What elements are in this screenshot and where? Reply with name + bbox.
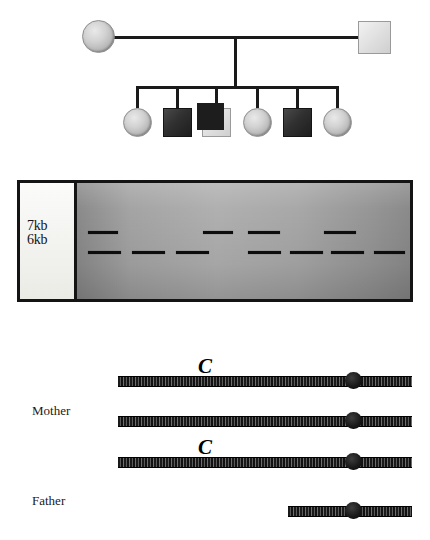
gel-electrophoresis: 7kb 6kb	[17, 180, 413, 302]
chromosome-bar-1	[118, 376, 412, 387]
gel-lane-area	[77, 183, 410, 299]
band-lane5-7kb	[248, 231, 280, 234]
centromere-3	[345, 453, 362, 470]
pedigree-chart	[0, 0, 430, 165]
pedigree-symbol-child-2[interactable]	[163, 108, 192, 137]
sibship-line	[136, 86, 339, 89]
child-drop-line-5	[296, 86, 299, 108]
band-lane8-6kb	[374, 251, 405, 254]
chromosome-row-4[interactable]	[0, 502, 430, 518]
chromosome-bar-2	[118, 416, 412, 427]
band-lane1-7kb	[88, 231, 118, 234]
chromosome-row-3[interactable]: C	[0, 453, 430, 469]
band-lane2-6kb	[132, 251, 165, 254]
child-drop-line-6	[336, 86, 339, 108]
chromosome-row-1[interactable]: C	[0, 372, 430, 388]
gel-marker-panel: 7kb 6kb	[20, 183, 77, 299]
pedigree-symbol-child-5[interactable]	[283, 108, 312, 137]
pedigree-symbol-father[interactable]	[358, 21, 391, 54]
pedigree-symbol-child-3[interactable]	[202, 108, 231, 137]
centromere-4	[345, 502, 362, 519]
band-lane1-6kb	[88, 251, 121, 254]
size-marker-7kb: 7kb	[27, 219, 47, 233]
gel-size-marker-labels: 7kb 6kb	[27, 219, 47, 248]
band-lane4-7kb	[203, 231, 233, 234]
band-lane3-6kb	[176, 251, 209, 254]
chromosome-haplotypes: Mother Father C C	[0, 350, 430, 540]
size-marker-6kb: 6kb	[27, 233, 47, 247]
figure-canvas: 7kb 6kb Mother Father	[0, 0, 430, 540]
chromosome-row-2[interactable]	[0, 412, 430, 428]
centromere-1	[345, 372, 362, 389]
descent-line	[234, 36, 237, 88]
band-lane6-6kb	[290, 251, 323, 254]
allele-marker-row-3: C	[198, 437, 212, 458]
chromosome-bar-3	[118, 457, 412, 468]
allele-marker-row-1: C	[198, 356, 212, 377]
child-drop-line-1	[136, 86, 139, 108]
band-lane7-7kb	[324, 231, 356, 234]
centromere-2	[345, 412, 362, 429]
pedigree-symbol-child-1[interactable]	[123, 108, 152, 137]
band-lane7-6kb	[331, 251, 364, 254]
band-lane5-6kb	[248, 251, 281, 254]
pedigree-symbol-mother[interactable]	[82, 20, 115, 53]
pedigree-symbol-child-4[interactable]	[243, 108, 272, 137]
pedigree-symbol-child-6[interactable]	[323, 108, 352, 137]
child-drop-line-2	[176, 86, 179, 108]
child-drop-line-4	[256, 86, 259, 108]
